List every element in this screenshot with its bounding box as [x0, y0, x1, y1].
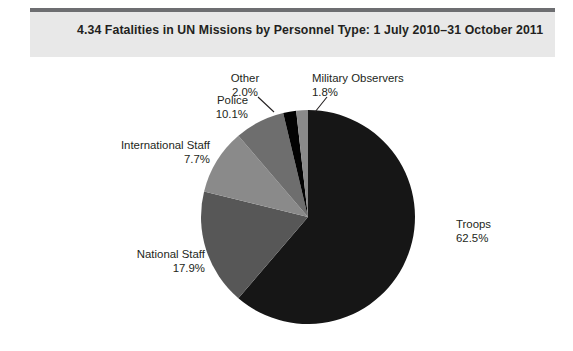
pie-label-troops-percent: 62.5%: [456, 231, 556, 245]
pie-label-police-percent: 10.1%: [148, 107, 248, 121]
pie-slices: [201, 110, 415, 324]
pie-label-military-observers-percent: 1.8%: [312, 85, 462, 99]
pie-label-police-name: Police: [148, 93, 248, 107]
pie-label-international-staff-percent: 7.7%: [60, 152, 210, 166]
pie-label-other-name: Other: [200, 71, 290, 85]
pie-label-military-observers-name: Military Observers: [312, 71, 462, 85]
header-top-rule: [30, 8, 555, 12]
pie-label-military-observers: Military Observers 1.8%: [312, 71, 462, 99]
pie-label-national-staff-percent: 17.9%: [55, 261, 205, 275]
pie-label-national-staff-name: National Staff: [55, 247, 205, 261]
pie-label-international-staff-name: International Staff: [60, 138, 210, 152]
pie-label-troops-name: Troops: [456, 217, 556, 231]
pie-label-police: Police 10.1%: [148, 93, 248, 121]
pie-label-international-staff: International Staff 7.7%: [60, 138, 210, 166]
pie-label-troops: Troops 62.5%: [456, 217, 556, 245]
page-title: 4.34 Fatalities in UN Missions by Person…: [77, 23, 543, 37]
chart-plot-area: Other 2.0% Military Observers 1.8% Polic…: [0, 57, 573, 351]
pie-chart: [0, 57, 573, 351]
pie-label-national-staff: National Staff 17.9%: [55, 247, 205, 275]
